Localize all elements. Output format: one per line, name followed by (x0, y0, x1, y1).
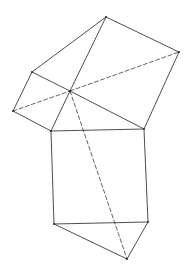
vertex-far-left (12, 110, 14, 112)
vertex-right (178, 51, 180, 53)
solid-edge-square-bottom-left-to-bottom (54, 224, 127, 259)
solid-edge-top-to-right (106, 17, 179, 52)
diagram-canvas (0, 0, 187, 274)
solid-edge-square-top-left-to-square-bottom-left (51, 131, 54, 224)
vertex-center (69, 90, 71, 92)
solid-edge-upper-left-to-center (32, 72, 70, 91)
solid-edge-square-top-left-to-square-top-right (51, 129, 144, 131)
solid-edges (13, 17, 179, 259)
geometric-figure (0, 0, 187, 274)
vertex-square-bottom-right (147, 221, 149, 223)
vertex-square-top-left (50, 130, 52, 132)
vertex-square-bottom-left (53, 223, 55, 225)
solid-edge-far-left-to-square-top-left (13, 111, 51, 131)
dashed-edges (13, 52, 179, 259)
solid-edge-upper-left-to-top (32, 17, 106, 72)
solid-edge-square-bottom-left-to-square-bottom-right (54, 222, 148, 224)
vertex-upper-left (31, 71, 33, 73)
vertex-top (105, 16, 107, 18)
solid-edge-square-top-right-to-square-bottom-right (144, 129, 148, 222)
solid-edge-square-bottom-right-to-bottom (127, 222, 148, 259)
vertex-bottom (126, 258, 128, 260)
vertex-square-top-right (143, 128, 145, 130)
solid-edge-right-to-square-top-right (144, 52, 179, 129)
